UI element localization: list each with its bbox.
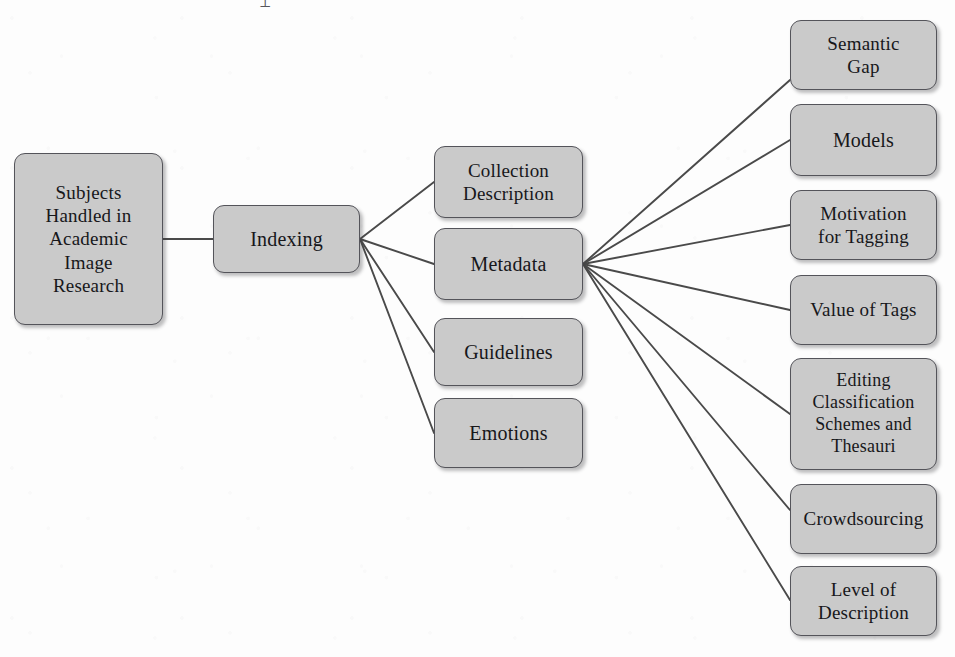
node-label-emotions: Emotions [469,421,547,445]
scan-artifact-top: ⊥ [259,0,271,9]
node-metadata[interactable]: Metadata [434,228,583,300]
node-emotions[interactable]: Emotions [434,398,583,468]
node-collection-description[interactable]: Collection Description [434,146,583,218]
node-label-semantic-gap: Semantic Gap [827,32,899,78]
node-semantic-gap[interactable]: Semantic Gap [790,20,937,90]
node-guidelines[interactable]: Guidelines [434,318,583,386]
node-label-collection-description: Collection Description [463,159,554,205]
node-label-guidelines: Guidelines [464,340,553,364]
node-motivation-for-tagging[interactable]: Motivation for Tagging [790,190,937,260]
node-indexing[interactable]: Indexing [213,205,360,273]
node-label-editing-classification-schemes-and-thesauri: Editing Classification Schemes and Thesa… [813,370,915,458]
edge-indexing-metadata [360,239,434,264]
node-label-level-of-description: Level of Description [818,578,909,624]
node-editing-classification-schemes-and-thesauri[interactable]: Editing Classification Schemes and Thesa… [790,358,937,470]
node-value-of-tags[interactable]: Value of Tags [790,275,937,345]
node-label-root: Subjects Handled in Academic Image Resea… [46,181,132,297]
node-label-crowdsourcing: Crowdsourcing [804,507,924,530]
node-root[interactable]: Subjects Handled in Academic Image Resea… [14,153,163,325]
diagram-canvas: Subjects Handled in Academic Image Resea… [0,0,955,657]
node-label-models: Models [833,128,894,152]
node-crowdsourcing[interactable]: Crowdsourcing [790,484,937,554]
node-label-value-of-tags: Value of Tags [810,298,916,321]
node-label-motivation-for-tagging: Motivation for Tagging [818,202,909,248]
edge-metadata-semantic-gap [583,80,790,264]
node-models[interactable]: Models [790,104,937,176]
edge-metadata-crowdsourcing [583,264,790,510]
node-label-metadata: Metadata [470,252,546,276]
edge-metadata-level-of-description [583,264,790,600]
node-level-of-description[interactable]: Level of Description [790,566,937,636]
node-label-indexing: Indexing [250,227,323,251]
edge-indexing-collection-description [360,182,434,239]
